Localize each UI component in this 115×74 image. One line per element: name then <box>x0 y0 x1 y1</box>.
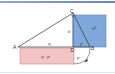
h-squared-square <box>73 15 106 47</box>
q-label: q <box>48 41 51 46</box>
right-angle-dot <box>73 16 74 17</box>
point-d-label: D <box>71 47 75 53</box>
h-label: h <box>68 29 71 34</box>
rotation-arc <box>86 47 90 60</box>
height-theorem-diagram: A C D B q h h² p q · p p <box>0 0 115 74</box>
p-square-label: p <box>79 41 83 46</box>
h-squared-label: h² <box>92 26 97 31</box>
rotation-arc-end <box>74 60 86 64</box>
point-c-label: C <box>70 8 74 14</box>
point-a-label: A <box>13 44 17 50</box>
p-arc-label: p <box>76 55 80 60</box>
bottom-border <box>0 72 115 73</box>
qp-label: q · p <box>41 54 50 59</box>
